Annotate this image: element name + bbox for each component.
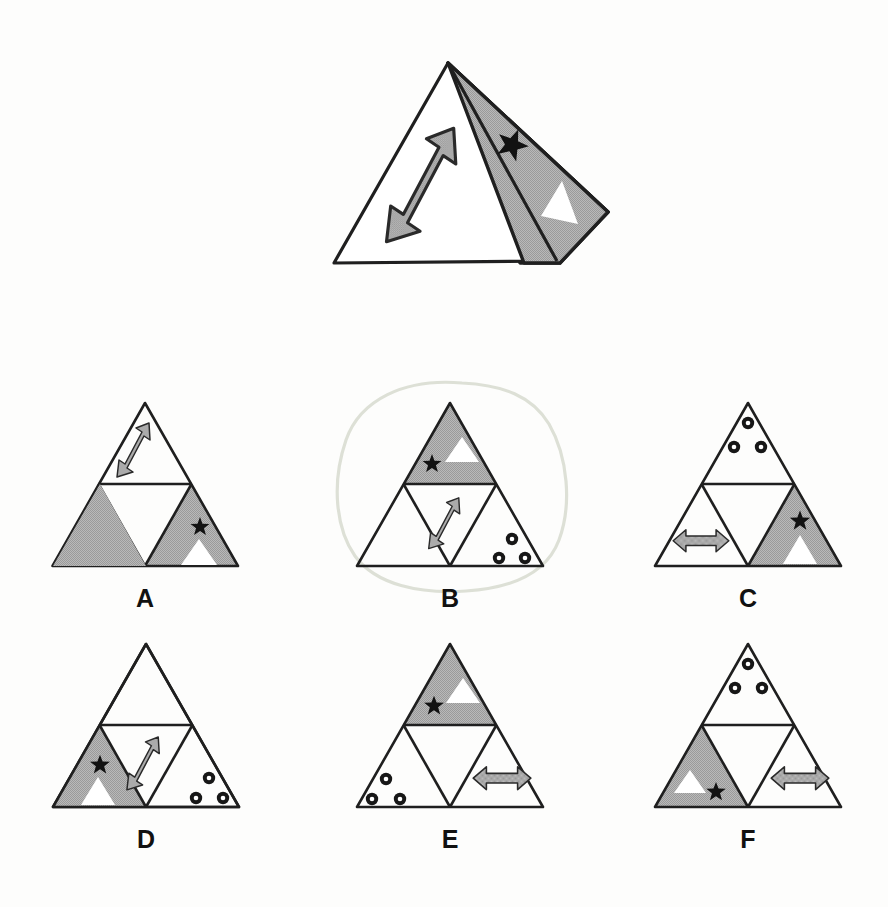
puzzle-figure-sheet: A B xyxy=(0,0,888,907)
option-c-label: C xyxy=(739,584,757,612)
option-c-divider-left xyxy=(702,484,749,566)
three-circles-icon xyxy=(728,417,767,453)
three-circles-icon xyxy=(729,658,768,694)
option-e-label: E xyxy=(442,825,459,853)
option-f-shaded-cell xyxy=(655,725,748,807)
option-b-divider-right xyxy=(450,484,497,566)
option-d-content xyxy=(53,644,239,807)
option-b-label: B xyxy=(441,584,459,612)
option-a[interactable]: A xyxy=(53,403,239,612)
option-b-shaded-cell-fill xyxy=(404,403,497,484)
horizontal-double-arrow-icon xyxy=(473,767,531,790)
diagonal-double-arrow-icon xyxy=(117,423,150,477)
horizontal-double-arrow-icon xyxy=(771,767,829,790)
diagonal-double-arrow-icon xyxy=(429,498,460,549)
option-e-divider-left xyxy=(404,725,451,807)
option-e-shaded-cell xyxy=(404,644,497,725)
diagonal-double-arrow-icon xyxy=(127,737,159,790)
option-c[interactable]: C xyxy=(655,403,841,612)
three-circles-icon xyxy=(190,772,229,804)
horizontal-double-arrow-icon xyxy=(673,530,729,552)
option-a-label: A xyxy=(136,584,154,612)
option-f[interactable]: F xyxy=(655,644,841,853)
option-e[interactable]: E xyxy=(357,644,543,853)
option-b[interactable]: B xyxy=(337,382,566,612)
option-d-label: D xyxy=(137,825,155,853)
option-f-divider-right xyxy=(748,725,795,807)
option-d-shaded-cell-fill xyxy=(53,484,146,566)
option-f-label: F xyxy=(740,825,755,853)
option-d-divider-right xyxy=(146,725,193,807)
option-e-divider-right xyxy=(450,725,497,807)
three-circles-icon xyxy=(366,773,406,805)
prompt-figure xyxy=(334,63,608,263)
